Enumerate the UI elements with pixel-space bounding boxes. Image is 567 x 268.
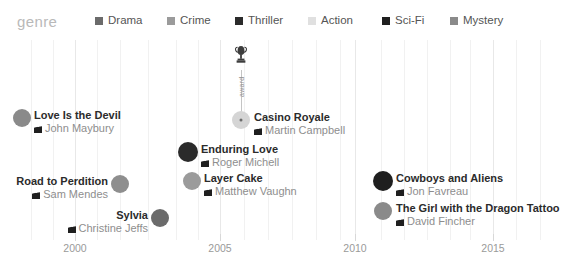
data-point-label[interactable]: Love Is the DevilJohn Maybury [34, 110, 121, 134]
movie-title: Road to Perdition [0, 176, 108, 188]
data-point-marker[interactable] [111, 175, 129, 193]
legend-item-label: Action [321, 14, 353, 26]
x-axis: 2000200520102015 [0, 240, 567, 268]
director-name: Jon Favreau [407, 185, 468, 197]
gridline [198, 40, 199, 240]
movie-title: Sylvia [0, 210, 148, 222]
legend-item-label: Thriller [248, 14, 283, 26]
director-name: Roger Michell [212, 156, 279, 168]
legend-item-label: Crime [180, 14, 211, 26]
axis-tick-label: 2005 [208, 242, 231, 254]
data-point-label[interactable]: Road to PerditionSam Mendes [0, 176, 108, 200]
data-point-marker[interactable] [373, 171, 393, 191]
legend-swatch-icon [450, 17, 458, 25]
axis-tick-label: 2010 [343, 242, 366, 254]
legend-swatch-icon [308, 17, 316, 25]
director-name: Christine Jeffs [79, 222, 149, 234]
data-point-label[interactable]: Cowboys and AliensJon Favreau [396, 173, 503, 197]
director-name: Martin Campbell [265, 124, 345, 136]
clapperboard-icon [34, 125, 42, 133]
gridline [340, 40, 341, 240]
director-name: Matthew Vaughn [215, 185, 297, 197]
legend-swatch-icon [235, 17, 243, 25]
axis-tick-label: 2015 [481, 242, 504, 254]
data-point-label[interactable]: Layer CakeMatthew Vaughn [204, 173, 297, 197]
movie-director: Jon Favreau [396, 186, 503, 198]
data-point-label[interactable]: Enduring LoveRoger Michell [201, 144, 279, 168]
trophy-icon [234, 45, 248, 71]
movie-director: Sam Mendes [0, 189, 108, 201]
data-point-marker[interactable] [13, 109, 31, 127]
gridline [268, 40, 269, 240]
clapperboard-icon [32, 191, 40, 199]
director-name: David Fincher [407, 215, 475, 227]
clapperboard-icon [254, 127, 262, 135]
legend-item-thriller[interactable]: Thriller [235, 14, 283, 26]
gridline [148, 40, 149, 240]
data-point-label[interactable]: Casino RoyaleMartin Campbell [254, 112, 345, 136]
legend-item-label: Sci-Fi [395, 14, 424, 26]
legend-item-label: Mystery [463, 14, 503, 26]
axis-tick-mark [355, 234, 356, 241]
director-name: Sam Mendes [43, 188, 108, 200]
legend-item-label: Drama [108, 14, 143, 26]
gridline [220, 40, 221, 240]
data-point-marker[interactable] [374, 202, 392, 220]
clapperboard-icon [68, 225, 76, 233]
legend: genre DramaCrimeThrillerActionSci-FiMyst… [0, 0, 567, 40]
movie-title: Enduring Love [201, 144, 279, 156]
clapperboard-icon [396, 188, 404, 196]
gridline [316, 40, 317, 240]
legend-swatch-icon [95, 17, 103, 25]
legend-swatch-icon [382, 17, 390, 25]
legend-item-crime[interactable]: Crime [167, 14, 211, 26]
movie-director: Christine Jeffs [0, 223, 148, 235]
director-name: John Maybury [45, 122, 114, 134]
clapperboard-icon [204, 188, 212, 196]
movie-director: Matthew Vaughn [204, 186, 297, 198]
gridline [176, 40, 177, 240]
movie-director: Roger Michell [201, 157, 279, 169]
axis-tick-label: 2000 [63, 242, 86, 254]
gridline [292, 40, 293, 240]
scatter-plot-area: award Love Is the DevilJohn MayburyCasin… [0, 40, 567, 240]
clapperboard-icon [201, 159, 209, 167]
movie-title: Casino Royale [254, 112, 345, 124]
movie-title: Layer Cake [204, 173, 297, 185]
legend-title: genre [17, 13, 57, 30]
data-point-marker[interactable] [151, 209, 169, 227]
axis-tick-mark [75, 234, 76, 241]
gridline [355, 40, 356, 240]
legend-item-action[interactable]: Action [308, 14, 353, 26]
movie-title: The Girl with the Dragon Tattoo [396, 203, 560, 215]
data-point-label[interactable]: The Girl with the Dragon TattooDavid Fin… [396, 203, 560, 227]
legend-item-mystery[interactable]: Mystery [450, 14, 503, 26]
axis-tick-mark [493, 234, 494, 241]
legend-item-drama[interactable]: Drama [95, 14, 143, 26]
movie-director: Martin Campbell [254, 125, 345, 137]
data-point-marker[interactable] [178, 142, 198, 162]
legend-item-sci-fi[interactable]: Sci-Fi [382, 14, 424, 26]
award-label: award [238, 76, 245, 97]
axis-tick-mark [220, 234, 221, 241]
clapperboard-icon [396, 218, 404, 226]
movie-director: John Maybury [34, 123, 121, 135]
data-point-center-dot [240, 119, 243, 122]
data-point-marker[interactable] [183, 172, 201, 190]
movie-title: Cowboys and Aliens [396, 173, 503, 185]
legend-swatch-icon [167, 17, 175, 25]
movie-director: David Fincher [396, 216, 560, 228]
movie-title: Love Is the Devil [34, 110, 121, 122]
data-point-label[interactable]: SylviaChristine Jeffs [0, 210, 148, 234]
